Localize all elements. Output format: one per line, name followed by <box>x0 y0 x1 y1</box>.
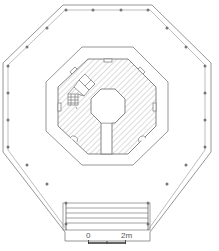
floor-plan-drawing <box>0 0 219 251</box>
entrance-steps <box>63 203 150 230</box>
scale-end-label: 2m <box>121 232 132 240</box>
scale-start-label: 0 <box>86 232 90 240</box>
